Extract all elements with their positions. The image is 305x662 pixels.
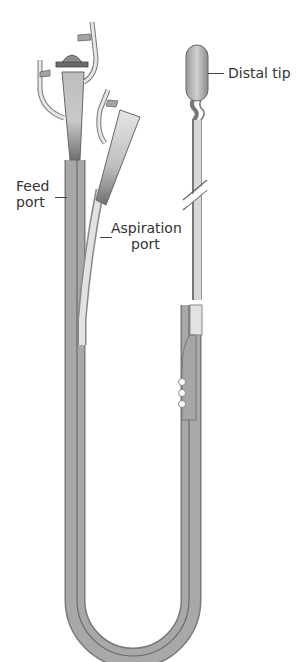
feed-port-leader (55, 197, 67, 198)
feed-port-hub (40, 22, 96, 160)
aspiration-port-hub (96, 90, 140, 205)
feed-port-label-line2: port (16, 194, 45, 210)
aspiration-port-leader (100, 237, 112, 238)
distal-limb (179, 45, 209, 420)
distal-tip-label: Distal tip (228, 65, 291, 81)
aspiration-port-label-line1: Aspiration (111, 220, 182, 236)
feeding-tube-diagram (0, 0, 305, 662)
distal-tip-leader (208, 73, 224, 74)
feed-port-label-line1: Feed (16, 178, 49, 194)
aspiration-port-label-line2: port (131, 236, 160, 252)
